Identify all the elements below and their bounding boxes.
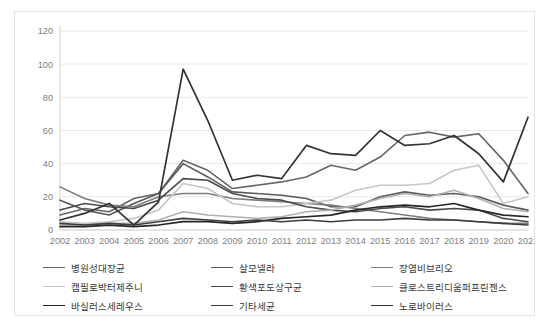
series-line-살모넬라 bbox=[60, 164, 528, 215]
x-tick-label: 2013 bbox=[321, 236, 341, 246]
legend-item-label: 노로바이러스 bbox=[399, 299, 453, 313]
legend-item-살모넬라[interactable]: 살모넬라 bbox=[211, 258, 371, 277]
x-tick-label: 2011 bbox=[272, 236, 292, 246]
x-tick-label: 2006 bbox=[148, 236, 168, 246]
x-tick-label: 2008 bbox=[198, 236, 218, 246]
x-tick-label: 2015 bbox=[370, 236, 390, 246]
plot-area: 020406080100120 200220032004200520062007… bbox=[15, 12, 534, 255]
legend-item-label: 바실러스세레우스 bbox=[71, 299, 143, 313]
x-tick-label: 2010 bbox=[247, 236, 267, 246]
x-tick-label: 2005 bbox=[124, 236, 144, 246]
y-tick-label: 40 bbox=[43, 159, 53, 169]
legend-item-황색포도상구균[interactable]: 황색포도상구균 bbox=[211, 277, 371, 296]
legend-grid: 병원성대장균살모넬라장염비브리오캠필로박터제주니황색포도상구균클로스트리디움퍼프… bbox=[15, 258, 534, 315]
x-tick-label: 2019 bbox=[469, 236, 489, 246]
y-tick-label: 100 bbox=[38, 60, 53, 70]
legend-item-클로스트리디움퍼프린젠스[interactable]: 클로스트리디움퍼프린젠스 bbox=[371, 277, 549, 296]
legend-swatch-icon bbox=[43, 267, 65, 268]
x-tick-label: 2009 bbox=[222, 236, 242, 246]
x-tick-label: 2007 bbox=[173, 236, 193, 246]
legend-swatch-icon bbox=[211, 267, 233, 268]
chart-figure: 020406080100120 200220032004200520062007… bbox=[14, 11, 535, 316]
line-chart-svg: 020406080100120 200220032004200520062007… bbox=[15, 12, 534, 255]
legend-item-노로바이러스[interactable]: 노로바이러스 bbox=[371, 296, 549, 315]
x-tick-label: 2017 bbox=[419, 236, 439, 246]
x-tick-label: 2004 bbox=[99, 236, 119, 246]
x-tick-label: 2016 bbox=[395, 236, 415, 246]
x-tick-label: 2003 bbox=[74, 236, 94, 246]
legend-swatch-icon bbox=[371, 286, 393, 287]
x-tick-label: 2021 bbox=[518, 236, 534, 246]
series-lines bbox=[60, 69, 528, 227]
legend-item-label: 캠필로박터제주니 bbox=[71, 280, 143, 294]
legend-swatch-icon bbox=[211, 286, 233, 287]
x-axis-tick-labels: 2002200320042005200620072008200920102011… bbox=[50, 236, 534, 246]
legend-item-병원성대장균[interactable]: 병원성대장균 bbox=[43, 258, 211, 277]
legend-swatch-icon bbox=[43, 305, 65, 306]
y-tick-label: 60 bbox=[43, 126, 53, 136]
y-tick-label: 0 bbox=[48, 225, 53, 235]
legend-item-label: 클로스트리디움퍼프린젠스 bbox=[399, 280, 507, 294]
y-tick-label: 20 bbox=[43, 192, 53, 202]
y-tick-label: 120 bbox=[38, 26, 53, 36]
legend-item-label: 살모넬라 bbox=[239, 261, 275, 275]
legend-item-바실러스세레우스[interactable]: 바실러스세레우스 bbox=[43, 296, 211, 315]
legend-item-label: 병원성대장균 bbox=[71, 261, 125, 275]
legend-item-label: 황색포도상구균 bbox=[239, 280, 302, 294]
x-tick-label: 2020 bbox=[493, 236, 513, 246]
chart-legend: 병원성대장균살모넬라장염비브리오캠필로박터제주니황색포도상구균클로스트리디움퍼프… bbox=[15, 258, 534, 315]
x-tick-label: 2012 bbox=[296, 236, 316, 246]
legend-item-기타세균[interactable]: 기타세균 bbox=[211, 296, 371, 315]
x-tick-label: 2018 bbox=[444, 236, 464, 246]
legend-item-장염비브리오[interactable]: 장염비브리오 bbox=[371, 258, 549, 277]
x-tick-label: 2014 bbox=[345, 236, 365, 246]
legend-item-label: 장염비브리오 bbox=[399, 261, 453, 275]
y-tick-label: 80 bbox=[43, 93, 53, 103]
legend-swatch-icon bbox=[371, 267, 393, 268]
legend-item-캠필로박터제주니[interactable]: 캠필로박터제주니 bbox=[43, 277, 211, 296]
x-tick-label: 2002 bbox=[50, 236, 70, 246]
legend-swatch-icon bbox=[211, 305, 233, 306]
y-axis-tick-labels: 020406080100120 bbox=[38, 26, 53, 235]
legend-swatch-icon bbox=[43, 286, 65, 287]
series-line-노로바이러스 bbox=[60, 69, 528, 225]
legend-swatch-icon bbox=[371, 305, 393, 306]
legend-item-label: 기타세균 bbox=[239, 299, 275, 313]
